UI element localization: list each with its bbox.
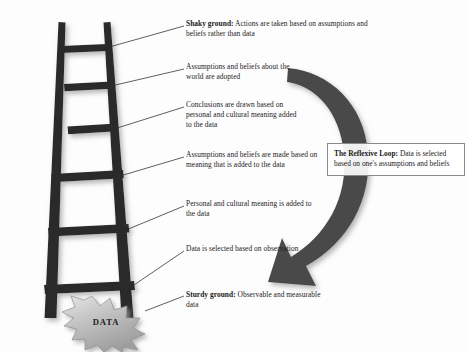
label-meaning-added: Personal and cultural meaning is added t… (186, 199, 312, 219)
label-assumptions-made: Assumptions and beliefs are made based o… (186, 150, 326, 170)
label-conclusions-drawn: Conclusions are drawn based on personal … (186, 100, 304, 131)
label-sturdy-ground-lead: Sturdy ground: (186, 290, 236, 299)
label-shaky-ground-lead: Shaky ground: (186, 19, 234, 28)
ladder-rung-6 (64, 82, 112, 92)
ladder-rung-5 (68, 124, 118, 135)
ladder-of-inference-diagram: Shaky ground: Actions are taken based on… (0, 0, 467, 352)
label-sturdy-ground: Sturdy ground: Observable and measurable… (186, 290, 326, 310)
leader-line-4 (120, 157, 184, 176)
label-assumptions-adopted-text: Assumptions and beliefs about the world … (186, 62, 289, 81)
leader-line-5 (126, 206, 184, 230)
label-conclusions-drawn-text: Conclusions are drawn based on personal … (186, 100, 297, 129)
ladder-left-rail (45, 22, 66, 318)
label-data-selected-text: Data is selected based on observation (186, 244, 298, 253)
leader-line-2 (109, 69, 184, 87)
label-meaning-added-text: Personal and cultural meaning is added t… (186, 199, 312, 218)
ladder-graphic (44, 22, 135, 318)
leader-line-7 (145, 296, 184, 311)
reflexive-loop-callout: The Reflexive Loop: Data is selected bas… (327, 143, 465, 176)
ladder-rung-4 (52, 170, 124, 182)
ladder-rung-7 (61, 44, 108, 53)
label-assumptions-made-text: Assumptions and beliefs are made based o… (186, 150, 317, 169)
label-data-selected: Data is selected based on observation (186, 244, 304, 254)
leader-line-3 (114, 107, 184, 129)
ladder-right-rail (104, 22, 134, 318)
label-shaky-ground: Shaky ground: Actions are taken based on… (186, 19, 376, 39)
label-assumptions-adopted: Assumptions and beliefs about the world … (186, 62, 298, 82)
leader-line-6 (131, 251, 184, 287)
reflexive-loop-lead: The Reflexive Loop: (334, 149, 398, 158)
leader-line-1 (104, 26, 184, 49)
data-burst-label: DATA (84, 317, 128, 327)
